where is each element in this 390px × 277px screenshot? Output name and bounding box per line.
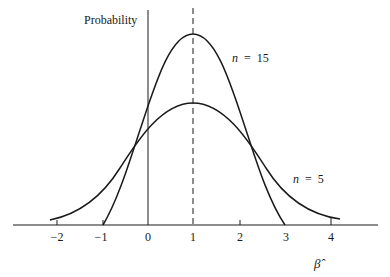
x-axis-label: β̂ — [314, 257, 320, 270]
tick-label-3: 3 — [283, 231, 289, 243]
tick-label-0: 0 — [145, 231, 151, 243]
curve-label-n5-value: 5 — [318, 172, 324, 186]
tick-label-4: 4 — [328, 231, 334, 243]
tick-label-neg2: −2 — [51, 231, 64, 243]
curve-label-n15-value: 15 — [257, 51, 269, 65]
curve-label-n5: n = 5 — [293, 173, 324, 185]
tick-label-neg1: −1 — [95, 231, 108, 243]
curve-label-n5-eq: = — [305, 172, 312, 186]
curve-label-n15-var: n — [232, 51, 238, 65]
curve-label-n15: n = 15 — [232, 52, 269, 64]
tick-label-2: 2 — [237, 231, 243, 243]
x-axis-ticks — [57, 218, 331, 225]
curve-n5 — [50, 103, 340, 220]
curve-label-n5-var: n — [293, 172, 299, 186]
y-axis-label: Probability — [84, 14, 137, 26]
tick-label-1: 1 — [190, 231, 196, 243]
curve-label-n15-eq: = — [244, 51, 251, 65]
